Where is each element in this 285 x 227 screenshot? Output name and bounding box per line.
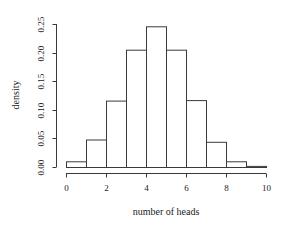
histogram-chart: 0.000.050.100.150.200.25 0246810 number … xyxy=(0,0,285,227)
histogram-bar xyxy=(67,162,87,168)
histogram-bars xyxy=(67,27,267,168)
x-tick-label: 2 xyxy=(104,183,109,193)
x-tick-label: 10 xyxy=(262,183,272,193)
y-tick-label: 0.10 xyxy=(36,102,46,118)
histogram-bar xyxy=(147,27,167,168)
histogram-bar xyxy=(187,101,207,168)
x-tick-label: 6 xyxy=(184,183,189,193)
y-tick-label: 0.20 xyxy=(36,45,46,61)
y-tick-label: 0.25 xyxy=(36,16,46,32)
histogram-bar xyxy=(127,50,147,167)
histogram-bar xyxy=(87,140,107,168)
x-axis-title: number of heads xyxy=(133,206,200,217)
y-tick-label: 0.05 xyxy=(36,130,46,146)
histogram-bar xyxy=(247,166,267,167)
histogram-bar xyxy=(207,142,227,167)
y-axis-title: density xyxy=(10,81,21,110)
histogram-bar xyxy=(107,101,127,167)
histogram-bar xyxy=(227,162,247,168)
histogram-bar xyxy=(167,50,187,167)
x-tick-label: 4 xyxy=(144,183,149,193)
x-axis: 0246810 xyxy=(64,174,271,194)
x-tick-label: 8 xyxy=(224,183,229,193)
y-tick-label: 0.15 xyxy=(36,73,46,89)
y-tick-label: 0.00 xyxy=(36,159,46,175)
x-tick-label: 0 xyxy=(64,183,69,193)
y-axis: 0.000.050.100.150.200.25 xyxy=(36,16,57,175)
